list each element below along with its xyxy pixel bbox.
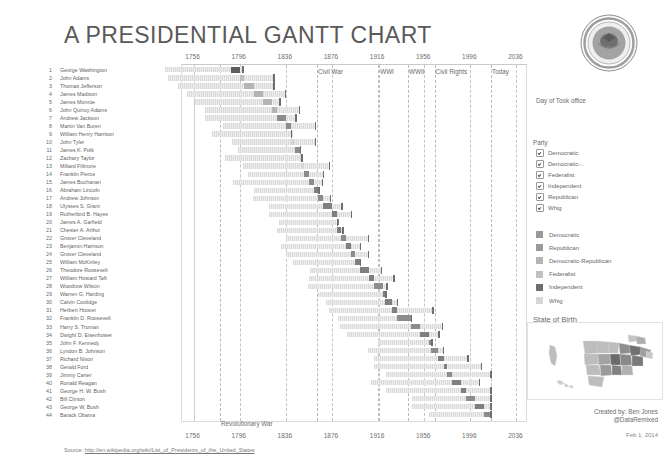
party-filter-1[interactable]: Democratic-.. (536, 158, 584, 169)
table-row[interactable] (181, 202, 527, 210)
lifespan-bar[interactable] (205, 107, 298, 112)
table-row[interactable] (181, 387, 527, 395)
term-in-office-bar[interactable] (475, 404, 484, 410)
president-list-item[interactable]: 3Thomas Jefferson (36, 82, 178, 90)
lifespan-bar[interactable] (254, 188, 319, 193)
term-in-office-bar[interactable] (244, 83, 253, 89)
president-list-item[interactable]: 36Lyndon B. Johnson (36, 347, 178, 355)
table-row[interactable] (181, 74, 527, 82)
lifespan-bar[interactable] (168, 75, 273, 80)
lifespan-bar[interactable] (248, 172, 323, 177)
term-in-office-bar[interactable] (309, 179, 314, 185)
table-row[interactable] (181, 194, 527, 202)
legend-item-4[interactable]: Independent (536, 281, 611, 294)
lifespan-bar[interactable] (412, 396, 490, 401)
president-list-item[interactable]: 20James A. Garfield (36, 218, 178, 226)
table-row[interactable] (181, 226, 527, 234)
table-row[interactable] (181, 130, 527, 138)
legend-item-0[interactable]: Democratic (536, 228, 611, 241)
president-list-item[interactable]: 25William McKinley (36, 258, 178, 266)
table-row[interactable] (181, 282, 527, 290)
lifespan-bar[interactable] (310, 268, 380, 273)
lifespan-bar[interactable] (232, 139, 315, 144)
president-list-item[interactable]: 41George H. W. Bush (36, 387, 178, 395)
term-in-office-bar[interactable] (341, 235, 346, 241)
party-filter-2[interactable]: Federalist (536, 169, 584, 180)
lifespan-bar[interactable] (371, 380, 478, 385)
party-filter-4[interactable]: Republican (536, 191, 584, 202)
term-in-office-bar[interactable] (452, 380, 461, 386)
lifespan-bar[interactable] (243, 163, 328, 168)
term-in-office-bar[interactable] (304, 171, 309, 177)
lifespan-bar[interactable] (293, 260, 360, 265)
lifespan-bar[interactable] (286, 252, 368, 257)
table-row[interactable] (181, 210, 527, 218)
term-in-office-bar[interactable] (374, 283, 383, 289)
term-in-office-bar[interactable] (337, 227, 342, 233)
table-row[interactable] (181, 266, 527, 274)
president-list-item[interactable]: 17Andrew Johnson (36, 194, 178, 202)
party-filter-5[interactable]: Whig (536, 202, 584, 213)
source-link[interactable]: http://en.wikipedia.org/wiki/List_of_Pre… (85, 447, 255, 453)
lifespan-bar[interactable] (374, 364, 481, 369)
table-row[interactable] (181, 114, 527, 122)
table-row[interactable] (181, 290, 527, 298)
us-state-of-birth-map[interactable] (527, 322, 663, 400)
legend-item-1[interactable]: Republican (536, 241, 611, 254)
term-in-office-bar[interactable] (263, 99, 272, 105)
president-list-item[interactable]: 43George W. Bush (36, 403, 178, 411)
table-row[interactable] (181, 146, 527, 154)
table-row[interactable] (181, 162, 527, 170)
term-in-office-bar[interactable] (286, 123, 291, 129)
term-in-office-bar[interactable] (254, 91, 263, 97)
term-in-office-bar[interactable] (431, 348, 438, 354)
lifespan-bar[interactable] (386, 372, 490, 377)
term-in-office-bar[interactable] (444, 364, 447, 370)
president-list-item[interactable]: 31Herbert Hoover (36, 306, 178, 314)
checkbox-icon[interactable] (536, 193, 544, 201)
term-in-office-bar[interactable] (447, 372, 452, 378)
term-in-office-bar[interactable] (301, 163, 304, 169)
table-row[interactable] (181, 274, 527, 282)
term-in-office-bar[interactable] (369, 275, 374, 281)
president-list-item[interactable]: 35John F. Kennedy (36, 339, 178, 347)
president-list-item[interactable]: 30Calvin Coolidge (36, 298, 178, 306)
president-list-item[interactable]: 32Franklin D. Roosevelt (36, 314, 178, 322)
table-row[interactable] (181, 154, 527, 162)
president-list-item[interactable]: 24Grover Cleveland (36, 250, 178, 258)
checkbox-icon[interactable] (536, 182, 544, 190)
lifespan-bar[interactable] (223, 123, 315, 128)
checkbox-icon[interactable] (536, 160, 544, 168)
president-list-item[interactable]: 13Millard Fillmore (36, 162, 178, 170)
president-list-item[interactable]: 1George Washington (36, 66, 178, 74)
legend-item-3[interactable]: Federalist (536, 268, 611, 281)
lifespan-bar[interactable] (212, 131, 290, 136)
legend-item-5[interactable]: Whig (536, 294, 611, 307)
lifespan-bar[interactable] (238, 147, 300, 152)
president-list-item[interactable]: 38Gerald Ford (36, 363, 178, 371)
table-row[interactable] (181, 218, 527, 226)
table-row[interactable] (181, 234, 527, 242)
table-row[interactable] (181, 314, 527, 322)
checkbox-icon[interactable] (536, 149, 544, 157)
table-row[interactable] (181, 98, 527, 106)
table-row[interactable] (181, 347, 527, 355)
president-list-item[interactable]: 39Jimmy Carter (36, 371, 178, 379)
president-list-item[interactable]: 15James Buchanan (36, 178, 178, 186)
table-row[interactable] (181, 331, 527, 339)
president-list-item[interactable]: 4James Madison (36, 90, 178, 98)
term-in-office-bar[interactable] (272, 107, 277, 113)
president-list-item[interactable]: 44Barack Obama (36, 411, 178, 419)
president-list-item[interactable]: 6John Quincy Adams (36, 106, 178, 114)
term-in-office-bar[interactable] (351, 251, 356, 257)
term-in-office-bar[interactable] (466, 396, 475, 402)
term-in-office-bar[interactable] (461, 388, 466, 394)
president-list-item[interactable]: 23Benjamin Harrison (36, 242, 178, 250)
table-row[interactable] (181, 82, 527, 90)
table-row[interactable] (181, 258, 527, 266)
term-in-office-bar[interactable] (438, 356, 444, 362)
table-row[interactable] (181, 371, 527, 379)
lifespan-bar[interactable] (286, 236, 368, 241)
table-row[interactable] (181, 411, 527, 419)
president-list-item[interactable]: 26Theodore Roosevelt (36, 266, 178, 274)
